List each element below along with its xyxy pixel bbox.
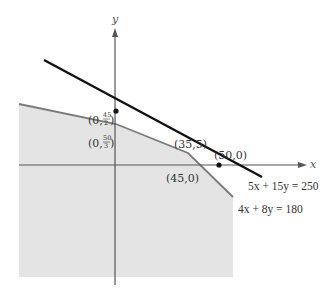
label-0-50-3: (0, 50 3 ) <box>88 134 114 150</box>
equation-line1: 5x + 15y = 250 <box>248 180 319 193</box>
svg-text:(0,: (0, <box>88 114 103 127</box>
label-45-0: (45,0) <box>166 172 199 185</box>
x-axis-arrow-icon <box>298 162 307 168</box>
equation-line2: 4x + 8y = 180 <box>238 203 303 216</box>
x-axis-label: x <box>310 158 317 171</box>
svg-text:): ) <box>110 137 114 150</box>
svg-text:): ) <box>110 114 114 127</box>
svg-text:(0,: (0, <box>88 137 103 150</box>
svg-text:2: 2 <box>104 119 108 127</box>
point-50-0 <box>216 162 221 167</box>
label-50-0: (50,0) <box>214 149 247 162</box>
label-0-45-2: (0, 45 2 ) <box>88 111 114 127</box>
y-axis-label: y <box>111 13 119 26</box>
y-axis-arrow-icon <box>112 28 118 37</box>
point-0-45-2 <box>113 108 118 113</box>
shaded-region <box>19 104 233 277</box>
lp-diagram: y x (0, 45 2 ) (0, 50 3 ) (35,5) (50,0) … <box>0 0 334 294</box>
svg-text:3: 3 <box>104 142 108 150</box>
label-35-5: (35,5) <box>174 138 207 151</box>
